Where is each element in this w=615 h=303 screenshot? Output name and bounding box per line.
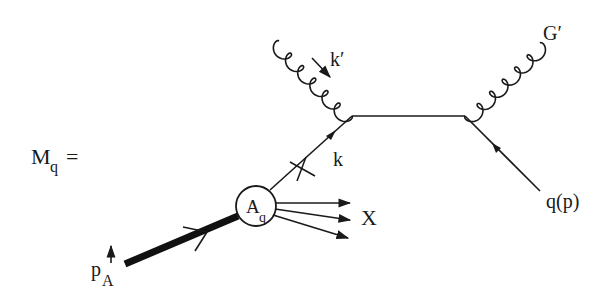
outgoing-gluon: G′ xyxy=(465,22,562,122)
hadron-subscript: A xyxy=(102,272,114,289)
feynman-diagram: M q = k′ G′ q(p) k A q xyxy=(0,0,615,303)
amplitude-label: M q = xyxy=(31,144,78,176)
hadron-label: p xyxy=(91,258,101,281)
equals-sign: = xyxy=(66,144,78,169)
gluon-in-label: k′ xyxy=(330,48,344,70)
parton-distribution-blob: A q xyxy=(236,186,276,226)
blob-symbol: A xyxy=(246,196,260,217)
blob-subscript: q xyxy=(259,210,266,225)
remnant-label: X xyxy=(361,205,377,230)
parton-line: k xyxy=(270,116,352,190)
parton-label: k xyxy=(333,148,343,170)
outgoing-quark: q(p) xyxy=(465,116,579,213)
gluon-right-line xyxy=(465,43,546,122)
amplitude-symbol: M xyxy=(31,144,51,169)
incoming-gluon: k′ xyxy=(273,41,352,122)
quark-out-line xyxy=(465,116,540,191)
incoming-hadron: p A xyxy=(91,216,238,289)
momentum-arrow-kprime xyxy=(312,58,330,77)
hadron-line xyxy=(125,216,238,264)
gluon-out-label: G′ xyxy=(543,22,562,44)
remnant-x: X xyxy=(273,203,377,238)
amplitude-subscript: q xyxy=(50,158,58,176)
quark-out-label: q(p) xyxy=(546,190,579,213)
